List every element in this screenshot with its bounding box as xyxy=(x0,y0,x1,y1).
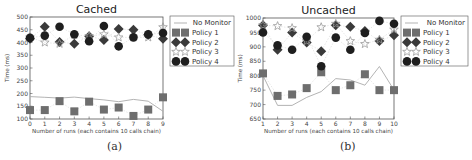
chart-title: Uncached xyxy=(301,4,356,17)
data-point-circle xyxy=(100,22,109,31)
legend-marker-square-icon xyxy=(403,29,411,37)
y-tick-label: 500 xyxy=(17,13,29,20)
legend-label: Policy 3 xyxy=(192,48,219,56)
data-point-star xyxy=(114,33,123,41)
data-point-circle xyxy=(331,33,340,42)
data-point-circle xyxy=(259,28,268,37)
series-connector xyxy=(30,26,163,46)
x-tick-label: 7 xyxy=(348,120,352,127)
series-connector xyxy=(263,25,394,51)
x-tick-label: 3 xyxy=(290,120,294,127)
x-tick-label: 5 xyxy=(319,120,323,127)
data-point-circle xyxy=(288,45,297,54)
x-tick-label: 4 xyxy=(87,120,91,127)
data-point-square xyxy=(375,86,383,94)
chart-uncached: Uncached65070075080085090095010001234567… xyxy=(236,0,472,160)
legend-label: No Monitor xyxy=(427,19,465,27)
y-axis-label: Time (ms) xyxy=(237,54,243,83)
plot-area xyxy=(25,22,168,120)
x-tick-label: 10 xyxy=(390,120,398,127)
series-connector xyxy=(30,97,163,116)
x-tick-label: 7 xyxy=(132,120,136,127)
y-tick-label: 300 xyxy=(17,64,29,71)
data-point-star xyxy=(361,40,370,48)
data-point-square xyxy=(361,70,369,78)
legend-marker-square-icon xyxy=(172,29,180,37)
y-tick-label: 750 xyxy=(250,86,262,93)
x-axis-label: Number of runs (each contains 10 calls c… xyxy=(32,128,161,134)
x-tick-label: 1 xyxy=(261,120,265,127)
series-no-monitor-line xyxy=(263,67,394,106)
data-point-circle xyxy=(346,45,355,54)
data-point-star xyxy=(273,22,282,30)
data-point-circle xyxy=(85,37,94,46)
legend-label: Policy 4 xyxy=(423,58,450,66)
data-point-circle xyxy=(70,30,79,39)
data-point-diamond xyxy=(69,39,79,49)
y-tick-label: 650 xyxy=(250,115,262,122)
series-no-monitor-line xyxy=(30,97,163,112)
data-point-square xyxy=(41,106,49,114)
series-connector xyxy=(263,72,394,96)
data-point-circle xyxy=(361,29,370,38)
data-point-circle xyxy=(375,17,384,26)
data-point-square xyxy=(129,112,137,120)
legend-marker-circle-icon xyxy=(172,57,181,66)
x-tick-label: 9 xyxy=(161,120,165,127)
data-point-square xyxy=(100,106,108,114)
data-point-square xyxy=(159,93,167,101)
data-point-square xyxy=(144,106,152,114)
legend-label: Policy 4 xyxy=(192,58,219,66)
legend-label: Policy 1 xyxy=(192,29,219,37)
data-point-square xyxy=(70,107,78,115)
chart-panel-uncached: Uncached65070075080085090095010001234567… xyxy=(236,0,472,160)
y-tick-label: 700 xyxy=(250,101,262,108)
data-point-square xyxy=(303,84,311,92)
y-tick-label: 1000 xyxy=(246,14,261,21)
data-point-circle xyxy=(40,31,49,40)
data-point-diamond xyxy=(287,27,297,37)
plot-area xyxy=(258,17,399,106)
legend-marker-circle-icon xyxy=(403,57,412,66)
legend-label: Policy 1 xyxy=(423,29,450,37)
y-tick-label: 450 xyxy=(17,26,29,33)
y-tick-label: 200 xyxy=(17,90,29,97)
legend-marker-circle-icon xyxy=(181,57,190,66)
caption-a: (a) xyxy=(107,140,122,153)
data-point-square xyxy=(56,97,64,105)
data-point-square xyxy=(259,69,267,77)
x-tick-label: 3 xyxy=(72,120,76,127)
x-tick-label: 2 xyxy=(276,120,280,127)
data-point-circle xyxy=(159,29,168,38)
data-point-circle xyxy=(144,30,153,39)
x-tick-label: 5 xyxy=(102,120,106,127)
data-point-square xyxy=(346,81,354,89)
data-point-square xyxy=(85,98,93,106)
data-point-square xyxy=(26,106,34,114)
x-tick-label: 4 xyxy=(305,120,309,127)
y-tick-label: 250 xyxy=(17,77,29,84)
x-tick-label: 2 xyxy=(58,120,62,127)
data-point-square xyxy=(288,90,296,98)
legend-label: Policy 3 xyxy=(423,48,450,56)
legend-marker-circle-icon xyxy=(412,57,421,66)
data-point-circle xyxy=(390,19,399,28)
x-tick-label: 1 xyxy=(43,120,47,127)
y-axis-label: Time (ms) xyxy=(4,54,10,83)
x-tick-label: 8 xyxy=(146,120,150,127)
legend-label: Policy 2 xyxy=(423,39,450,47)
x-tick-label: 9 xyxy=(378,120,382,127)
data-point-circle xyxy=(317,62,326,71)
legend-marker-square-icon xyxy=(181,29,189,37)
y-tick-label: 850 xyxy=(250,57,262,64)
data-point-square xyxy=(274,92,282,100)
data-point-circle xyxy=(302,32,311,41)
x-tick-label: 0 xyxy=(28,120,32,127)
data-point-circle xyxy=(114,42,123,51)
data-point-circle xyxy=(55,22,64,31)
data-point-circle xyxy=(26,34,35,43)
chart-panel-cached: Cached1001502002503003504004505000123456… xyxy=(0,0,236,160)
caption-b: (b) xyxy=(340,140,356,153)
chart-title: Cached xyxy=(76,3,117,16)
data-point-square xyxy=(115,104,123,112)
